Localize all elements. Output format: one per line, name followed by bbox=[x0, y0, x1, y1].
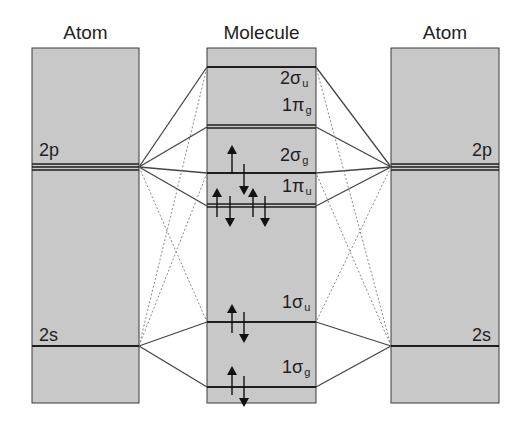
left-dotted-connectors bbox=[139, 67, 207, 346]
left-2p-label: 2p bbox=[39, 140, 59, 161]
right-connectors bbox=[316, 67, 391, 387]
right-atom-title: Atom bbox=[391, 22, 499, 44]
molecule-title: Molecule bbox=[200, 22, 323, 44]
mo-label-1sigma-g: 1σg bbox=[282, 357, 310, 378]
mo-diagram bbox=[0, 0, 522, 430]
mo-label-1pi-u: 1πu bbox=[282, 176, 312, 197]
left-connectors bbox=[139, 67, 207, 387]
mo-label-1pi-g: 1πg bbox=[282, 95, 312, 116]
left-atom-panel bbox=[32, 48, 139, 403]
right-dotted-connectors bbox=[316, 67, 391, 346]
left-atom-title: Atom bbox=[32, 22, 139, 44]
mo-label-2sigma-u: 2σu bbox=[280, 68, 308, 89]
left-2s-label: 2s bbox=[39, 325, 58, 346]
mo-label-1sigma-u: 1σu bbox=[282, 292, 310, 313]
right-2p-label: 2p bbox=[472, 140, 492, 161]
right-atom-panel bbox=[391, 48, 499, 403]
right-2s-label: 2s bbox=[472, 325, 491, 346]
mo-label-2sigma-g: 2σg bbox=[280, 145, 308, 166]
